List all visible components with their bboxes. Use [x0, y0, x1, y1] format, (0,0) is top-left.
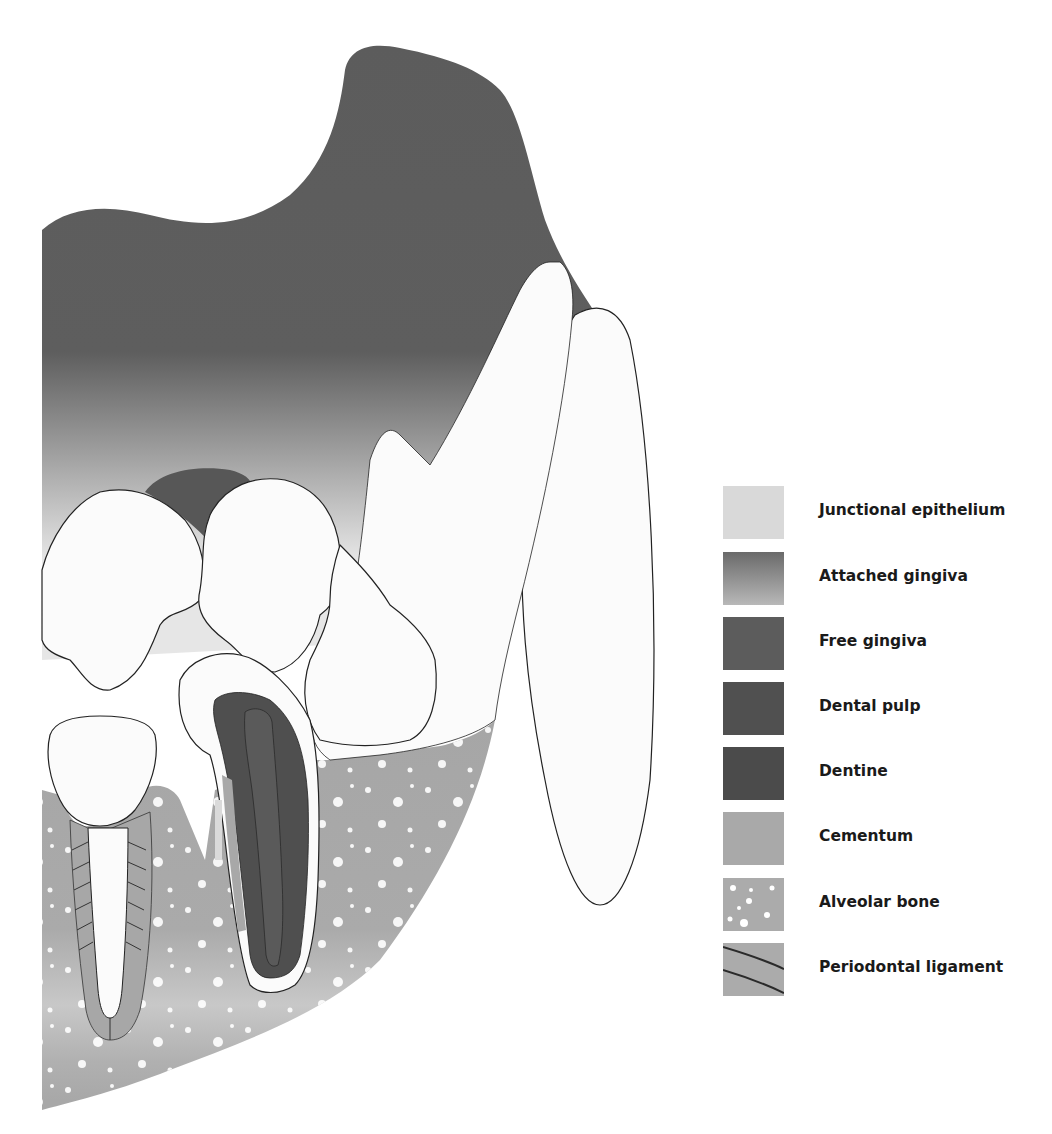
legend-item-attached-gingiva: Attached gingiva — [723, 552, 1052, 608]
legend-item-dentine: Dentine — [723, 747, 1052, 803]
dentine-swatch — [723, 747, 784, 800]
attached-gingiva-swatch — [723, 552, 784, 605]
legend-label: Dental pulp — [819, 697, 921, 715]
legend-label: Alveolar bone — [819, 893, 940, 911]
legend-item-cementum: Cementum — [723, 812, 1052, 868]
legend-label: Attached gingiva — [819, 567, 968, 585]
unerupted-crown-1 — [42, 490, 204, 690]
legend-label: Junctional epithelium — [819, 501, 1005, 519]
alveolar-bone-swatch — [723, 878, 784, 931]
free-gingiva-swatch — [723, 617, 784, 670]
legend-label: Free gingiva — [819, 632, 927, 650]
junctional-epithelium — [215, 800, 222, 860]
cementum-swatch — [723, 812, 784, 865]
legend-item-alveolar-bone: Alveolar bone — [723, 878, 1052, 934]
legend-item-dental-pulp: Dental pulp — [723, 682, 1052, 738]
junctional-epithelium-swatch — [723, 486, 784, 539]
legend-item-junctional-epithelium: Junctional epithelium — [723, 486, 1052, 542]
legend-label: Dentine — [819, 762, 888, 780]
legend-label: Cementum — [819, 827, 913, 845]
periodontal-ligament-swatch — [723, 943, 784, 996]
dental-pulp-swatch — [723, 682, 784, 735]
legend-label: Periodontal ligament — [819, 958, 1003, 976]
legend-item-free-gingiva: Free gingiva — [723, 617, 1052, 673]
legend-item-periodontal-ligament: Periodontal ligament — [723, 943, 1052, 999]
